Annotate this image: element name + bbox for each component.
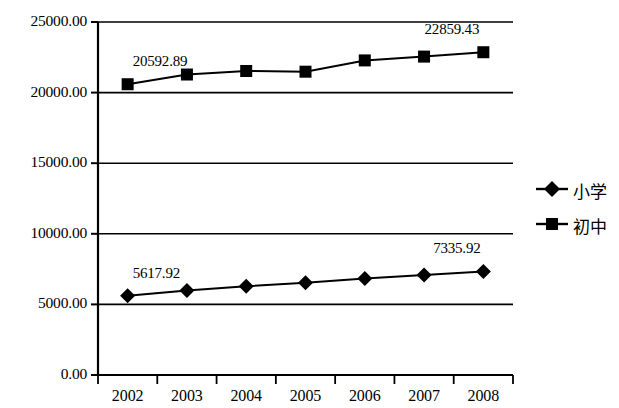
data-point-label: 22859.43 <box>425 21 480 38</box>
legend-marker-diamond <box>544 181 560 197</box>
legend-label-2: 初中 <box>573 213 607 238</box>
data-point-marker <box>239 279 254 294</box>
x-axis-tick-label: 2008 <box>454 387 513 405</box>
legend-markers <box>536 181 568 230</box>
legend-marker-square <box>546 218 558 230</box>
x-axis-tick-label: 2005 <box>276 387 335 405</box>
y-axis-tick-label: 15000.00 <box>30 153 87 171</box>
x-axis-ticks <box>98 375 513 384</box>
data-point-marker <box>300 66 312 78</box>
data-point-marker <box>357 271 372 286</box>
y-axis-tick-label: 10000.00 <box>30 224 87 242</box>
y-axis-tick-label: 20000.00 <box>30 83 87 101</box>
data-point-label: 20592.89 <box>133 53 188 70</box>
data-point-marker <box>122 78 134 90</box>
data-point-marker <box>298 275 313 290</box>
data-point-marker <box>477 46 489 58</box>
x-axis-tick-label: 2004 <box>217 387 276 405</box>
x-axis-tick-label: 2006 <box>335 387 394 405</box>
plot-area <box>0 0 619 408</box>
data-point-marker <box>359 54 371 66</box>
x-axis-tick-label: 2002 <box>98 387 157 405</box>
data-point-label: 7335.92 <box>433 240 480 257</box>
data-point-marker <box>120 288 135 303</box>
y-axis-tick-label: 0.00 <box>61 365 87 383</box>
data-point-marker <box>418 51 430 63</box>
data-point-marker <box>240 65 252 77</box>
data-point-marker <box>181 69 193 81</box>
data-point-label: 5617.92 <box>133 265 180 282</box>
line-chart: 0.005000.0010000.0015000.0020000.0025000… <box>0 0 619 408</box>
x-axis-tick-label: 2003 <box>157 387 216 405</box>
y-axis-tick-label: 25000.00 <box>30 12 87 30</box>
y-axis-tick-label: 5000.00 <box>38 294 87 312</box>
data-point-marker <box>417 267 432 282</box>
data-point-marker <box>476 264 491 279</box>
legend-label-1: 小学 <box>573 178 607 203</box>
data-point-marker <box>179 283 194 298</box>
x-axis-tick-label: 2007 <box>394 387 453 405</box>
